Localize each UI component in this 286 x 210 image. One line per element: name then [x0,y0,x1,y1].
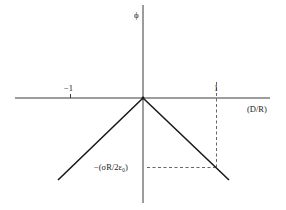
x-axis-label: (D/R) [247,104,267,114]
tick-neg-one-label: −1 [64,83,73,93]
y-axis-label: ϕ [134,10,139,20]
level-label: −(σR/2ε₀) [94,162,128,172]
tick-pos-one-label: 1 [214,83,218,93]
origin-dot [142,97,145,100]
potential-diagram: ϕ (D/R) −1 1 −(σR/2ε₀) [0,0,286,210]
